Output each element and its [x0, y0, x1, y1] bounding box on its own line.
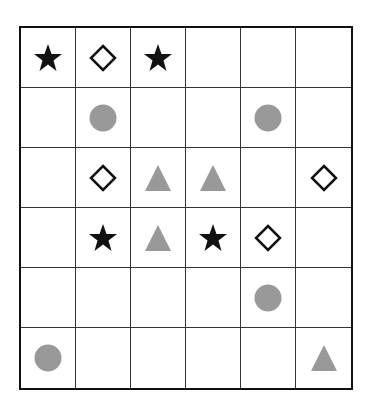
star-icon: [33, 43, 63, 73]
grid-cell-r3-c6: [296, 148, 351, 208]
grid-cell-r1-c4: [186, 28, 241, 88]
grid-cell-r1-c3: [131, 28, 186, 88]
diamond-icon: [253, 223, 283, 253]
grid-cell-r3-c5: [241, 148, 296, 208]
grid-cell-r6-c3: [131, 328, 186, 388]
grid-cell-r1-c6: [296, 28, 351, 88]
grid-cell-r2-c1: [21, 88, 76, 148]
grid-cell-r3-c3: [131, 148, 186, 208]
grid-cell-r2-c6: [296, 88, 351, 148]
grid-cell-r6-c1: [21, 328, 76, 388]
grid-cell-r1-c5: [241, 28, 296, 88]
diamond-icon: [309, 163, 339, 193]
grid-cell-r2-c4: [186, 88, 241, 148]
grid-cell-r5-c4: [186, 268, 241, 328]
grid-cell-r5-c3: [131, 268, 186, 328]
circle-icon: [254, 104, 282, 132]
circle-icon: [34, 344, 62, 372]
grid-cell-r4-c5: [241, 208, 296, 268]
triangle-icon: [310, 344, 338, 372]
triangle-icon: [144, 164, 172, 192]
grid-cell-r3-c1: [21, 148, 76, 208]
grid-cell-r6-c6: [296, 328, 351, 388]
star-icon: [143, 43, 173, 73]
grid-cell-r4-c3: [131, 208, 186, 268]
grid-cell-r6-c4: [186, 328, 241, 388]
grid-cell-r5-c1: [21, 268, 76, 328]
grid-cell-r5-c6: [296, 268, 351, 328]
circle-icon: [89, 104, 117, 132]
grid-cell-r4-c4: [186, 208, 241, 268]
grid-cell-r3-c2: [76, 148, 131, 208]
grid-cell-r2-c5: [241, 88, 296, 148]
grid-cell-r6-c5: [241, 328, 296, 388]
star-icon: [88, 223, 118, 253]
triangle-icon: [199, 164, 227, 192]
grid-cell-r4-c1: [21, 208, 76, 268]
grid-cell-r3-c4: [186, 148, 241, 208]
star-icon: [198, 223, 228, 253]
grid-cell-r1-c2: [76, 28, 131, 88]
diamond-icon: [88, 163, 118, 193]
grid-cell-r1-c1: [21, 28, 76, 88]
grid-cell-r5-c5: [241, 268, 296, 328]
grid-cell-r4-c2: [76, 208, 131, 268]
grid-cell-r4-c6: [296, 208, 351, 268]
grid-cell-r6-c2: [76, 328, 131, 388]
grid-cell-r5-c2: [76, 268, 131, 328]
shape-grid: [19, 26, 353, 390]
triangle-icon: [144, 224, 172, 252]
diamond-icon: [88, 43, 118, 73]
grid-cell-r2-c2: [76, 88, 131, 148]
grid-cell-r2-c3: [131, 88, 186, 148]
circle-icon: [254, 284, 282, 312]
